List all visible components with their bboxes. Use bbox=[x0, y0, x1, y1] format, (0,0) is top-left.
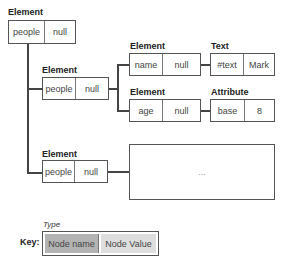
root-type-label: Element bbox=[8, 7, 43, 17]
connector-child2 bbox=[27, 172, 42, 174]
node-name: people bbox=[43, 78, 76, 99]
placeholder-box: ... bbox=[129, 144, 275, 200]
node-value: Mark bbox=[244, 54, 274, 75]
child2-type-label: Element bbox=[42, 149, 77, 159]
connector-child1 bbox=[27, 88, 42, 90]
name-node: name null bbox=[129, 53, 201, 76]
text-type-label: Text bbox=[211, 41, 229, 51]
key-node-value: Node Value bbox=[101, 234, 156, 253]
node-name: people bbox=[9, 21, 45, 43]
node-name: base bbox=[211, 100, 245, 121]
node-name: name bbox=[130, 54, 163, 75]
connector-attribute bbox=[201, 110, 210, 112]
key-node: Node name Node Value bbox=[42, 231, 159, 256]
node-name: people bbox=[43, 161, 75, 182]
connector-placeholder bbox=[108, 171, 129, 173]
child1-node: people null bbox=[42, 77, 109, 100]
key-type-label: Type bbox=[43, 220, 60, 229]
node-value: 8 bbox=[245, 100, 274, 121]
connector-text bbox=[201, 64, 210, 66]
key-label: Key: bbox=[20, 237, 40, 247]
node-name: age bbox=[130, 100, 163, 121]
connector-child1-branch bbox=[109, 88, 117, 90]
attribute-node: base 8 bbox=[210, 99, 275, 122]
age-node: age null bbox=[129, 99, 201, 122]
root-node: people null bbox=[8, 20, 76, 44]
text-node: #text Mark bbox=[210, 53, 275, 76]
attribute-type-label: Attribute bbox=[211, 87, 249, 97]
branch-vertical bbox=[117, 64, 119, 111]
connector-age bbox=[117, 110, 129, 112]
node-value: null bbox=[76, 78, 108, 99]
trunk-connector bbox=[27, 44, 29, 173]
connector-name bbox=[117, 64, 129, 66]
name-type-label: Element bbox=[130, 41, 165, 51]
node-name: #text bbox=[211, 54, 244, 75]
child1-type-label: Element bbox=[42, 65, 77, 75]
node-value: null bbox=[45, 21, 75, 43]
child2-node: people null bbox=[42, 160, 108, 183]
node-value: null bbox=[163, 54, 200, 75]
key-node-name: Node name bbox=[45, 234, 99, 253]
node-value: null bbox=[75, 161, 107, 182]
node-value: null bbox=[163, 100, 200, 121]
age-type-label: Element bbox=[130, 87, 165, 97]
